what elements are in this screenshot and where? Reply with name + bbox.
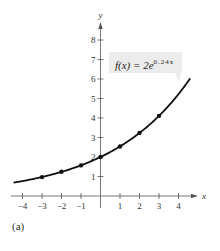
data-point bbox=[98, 155, 102, 159]
x-tick-label: −1 bbox=[76, 201, 86, 211]
x-tick-label: 3 bbox=[157, 201, 162, 211]
x-tick-label: 2 bbox=[137, 201, 142, 211]
y-tick-label: 4 bbox=[91, 113, 96, 123]
data-point bbox=[157, 114, 161, 118]
x-tick-label: −2 bbox=[57, 201, 67, 211]
y-tick-label: 7 bbox=[91, 55, 96, 65]
axes: xy−4−3−2−1123412345678 bbox=[11, 10, 206, 211]
y-tick-label: 8 bbox=[91, 35, 96, 45]
data-point bbox=[137, 131, 141, 135]
function-label: f(x) = 2e0.24x bbox=[109, 52, 182, 73]
callout-pointer bbox=[175, 73, 181, 82]
y-tick-label: 1 bbox=[91, 172, 96, 182]
figure-caption: (a) bbox=[12, 220, 24, 232]
x-tick-label: −4 bbox=[18, 201, 28, 211]
x-axis-arrow-icon bbox=[191, 194, 198, 198]
y-tick-label: 6 bbox=[91, 74, 96, 84]
function-label-exponent: 0.24x bbox=[154, 58, 175, 66]
data-point bbox=[79, 163, 83, 167]
data-point bbox=[59, 170, 63, 174]
chart-plot: xy−4−3−2−1123412345678 bbox=[0, 0, 220, 251]
y-axis-arrow-icon bbox=[98, 22, 102, 29]
x-tick-label: 1 bbox=[118, 201, 123, 211]
x-tick-label: −3 bbox=[37, 201, 47, 211]
x-tick-label: 4 bbox=[176, 201, 181, 211]
y-tick-label: 5 bbox=[91, 94, 96, 104]
function-label-prefix: f(x) = 2e bbox=[115, 59, 154, 71]
y-axis-label: y bbox=[98, 10, 103, 20]
y-tick-label: 3 bbox=[91, 133, 96, 143]
function-curve bbox=[14, 78, 191, 182]
curve-path bbox=[14, 78, 191, 182]
x-axis-label: x bbox=[201, 191, 206, 201]
data-point bbox=[118, 144, 122, 148]
data-point bbox=[40, 175, 44, 179]
